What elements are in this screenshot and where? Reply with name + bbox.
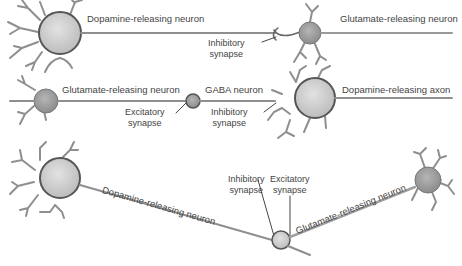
junction-neuron — [272, 231, 310, 255]
label-inhibitory-synapse: Inhibitory synapse — [208, 38, 245, 60]
label-dopamine-axon: Dopamine-releasing axon — [342, 84, 450, 95]
label-glutamate-neuron-2: Glutamate-releasing neuron — [62, 84, 180, 95]
dopamine-neuron-2 — [268, 66, 452, 138]
label-excitatory-synapse-3: Excitatory synapse — [270, 174, 310, 196]
label-gaba-neuron: GABA neuron — [205, 84, 263, 95]
gaba-neuron — [186, 94, 275, 108]
label-dopamine-neuron: Dopamine-releasing neuron — [87, 13, 204, 24]
label-excitatory-synapse: Excitatory synapse — [125, 107, 165, 129]
label-inhibitory-synapse-2: Inhibitory synapse — [211, 107, 248, 129]
label-glutamate-neuron: Glutamate-releasing neuron — [340, 13, 458, 24]
dopamine-neuron-1 — [8, 0, 275, 72]
label-inhibitory-synapse-3: Inhibitory synapse — [228, 174, 265, 196]
